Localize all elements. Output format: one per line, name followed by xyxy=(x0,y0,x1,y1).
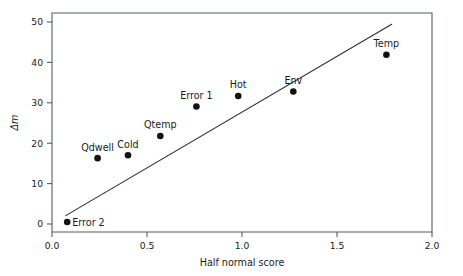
data-point xyxy=(193,103,200,110)
y-axis-ticks: 01020304050 xyxy=(31,16,52,229)
data-point xyxy=(157,133,164,140)
data-point xyxy=(235,93,242,100)
x-axis-ticks: 0.00.51.01.52.0 xyxy=(45,232,440,251)
reference-line xyxy=(65,24,392,216)
plot-canvas: 0.00.51.01.52.0 01020304050 Error 2Qdwel… xyxy=(0,0,463,276)
data-point-label: Cold xyxy=(117,139,138,150)
x-tick-label: 1.5 xyxy=(330,240,345,251)
x-axis-title: Half normal score xyxy=(200,257,285,268)
fitted-reference-line xyxy=(65,24,392,216)
x-tick-label: 0.0 xyxy=(45,240,60,251)
y-tick-label: 10 xyxy=(31,178,43,189)
data-point-label: Error 1 xyxy=(180,90,213,101)
y-axis-title: Δm xyxy=(9,115,20,132)
y-tick-label: 0 xyxy=(37,218,43,229)
data-point-label: Qdwell xyxy=(81,142,114,153)
data-point xyxy=(290,88,297,95)
data-point-label: Env xyxy=(284,75,302,86)
point-labels: Error 2QdwellColdQtempError 1HotEnvTemp xyxy=(72,38,399,227)
y-tick-label: 20 xyxy=(31,138,43,149)
x-tick-label: 0.5 xyxy=(140,240,155,251)
y-tick-label: 40 xyxy=(31,57,43,68)
data-point-label: Temp xyxy=(373,38,400,49)
data-point xyxy=(125,152,132,159)
data-point xyxy=(383,51,390,58)
y-tick-label: 50 xyxy=(31,16,43,27)
half-normal-plot: 0.00.51.01.52.0 01020304050 Error 2Qdwel… xyxy=(0,0,463,276)
y-tick-label: 30 xyxy=(31,97,43,108)
data-point xyxy=(64,219,71,226)
data-point-label: Hot xyxy=(230,79,247,90)
x-tick-label: 1.0 xyxy=(235,240,250,251)
data-points xyxy=(64,51,390,225)
data-point xyxy=(94,155,101,162)
data-point-label: Error 2 xyxy=(72,217,105,228)
x-tick-label: 2.0 xyxy=(425,240,440,251)
data-point-label: Qtemp xyxy=(144,119,177,130)
